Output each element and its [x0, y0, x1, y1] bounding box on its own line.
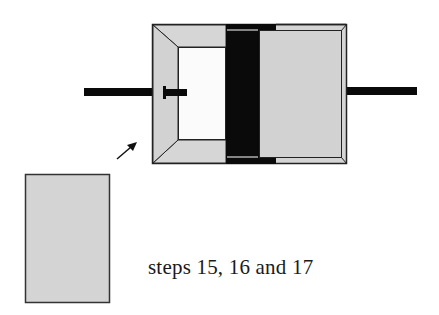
right-rod [347, 87, 417, 95]
loose-panel [26, 175, 110, 303]
left-rod [84, 88, 153, 96]
right-panel [260, 25, 347, 164]
steps-caption: steps 15, 16 and 17 [148, 255, 313, 280]
pointer-arrow-icon [117, 142, 137, 159]
